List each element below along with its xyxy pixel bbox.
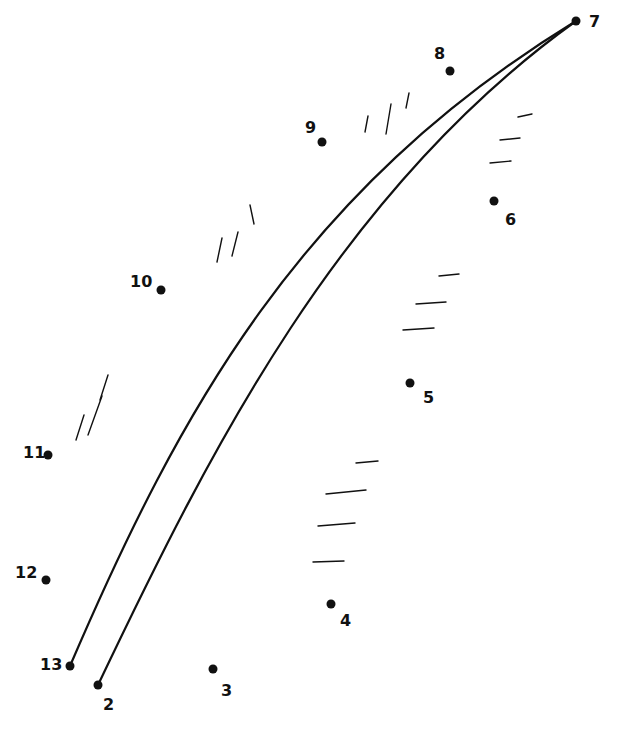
dot-number-label: 11 <box>23 443 45 462</box>
hatch-mark <box>217 238 222 262</box>
dot-marker-icon <box>327 600 336 609</box>
hatch-mark <box>518 114 532 117</box>
dot-marker-icon <box>406 379 415 388</box>
hatch-mark <box>100 375 108 400</box>
dot-number-label: 5 <box>423 388 434 407</box>
shaft-line <box>70 21 576 666</box>
hatch-mark <box>313 561 344 562</box>
numbered-dots: 2345678910111213 <box>15 12 600 714</box>
dot-marker-icon <box>157 286 166 295</box>
dot-8: 8 <box>434 44 455 76</box>
dot-9: 9 <box>305 118 327 147</box>
feather-hatch-marks <box>76 93 532 562</box>
hatch-mark <box>406 93 409 108</box>
hatch-mark <box>403 328 434 330</box>
hatch-mark <box>439 274 459 276</box>
dot-number-label: 2 <box>103 695 114 714</box>
dot-number-label: 10 <box>130 272 152 291</box>
hatch-mark <box>318 523 355 526</box>
dot-5: 5 <box>406 379 435 408</box>
hatch-mark <box>326 490 366 494</box>
dot-13: 13 <box>40 655 75 674</box>
dot-2: 2 <box>94 681 115 715</box>
dot-10: 10 <box>130 272 166 295</box>
hatch-mark <box>76 415 84 440</box>
hatch-mark <box>386 104 391 134</box>
shaft-line <box>98 21 576 685</box>
dot-marker-icon <box>66 662 75 671</box>
dot-number-label: 8 <box>434 44 445 63</box>
dot-number-label: 12 <box>15 563 37 582</box>
dot-7: 7 <box>572 12 601 31</box>
dot-12: 12 <box>15 563 51 585</box>
dot-marker-icon <box>490 197 499 206</box>
hatch-mark <box>88 396 102 435</box>
feather-dot-to-dot-worksheet: 2345678910111213 <box>0 0 619 751</box>
hatch-mark <box>250 205 254 224</box>
dot-3: 3 <box>209 665 233 701</box>
dot-marker-icon <box>94 681 103 690</box>
dot-marker-icon <box>42 576 51 585</box>
dot-number-label: 6 <box>505 210 516 229</box>
dot-marker-icon <box>446 67 455 76</box>
dot-number-label: 9 <box>305 118 316 137</box>
hatch-mark <box>356 461 378 463</box>
dot-4: 4 <box>327 600 352 631</box>
dot-6: 6 <box>490 197 517 230</box>
hatch-mark <box>232 232 238 256</box>
dot-marker-icon <box>572 17 581 26</box>
dot-number-label: 13 <box>40 655 62 674</box>
dot-11: 11 <box>23 443 53 462</box>
dot-number-label: 3 <box>221 681 232 700</box>
dot-number-label: 4 <box>340 611 351 630</box>
hatch-mark <box>500 138 520 140</box>
feather-shaft <box>70 21 576 685</box>
hatch-mark <box>416 302 446 304</box>
dot-number-label: 7 <box>589 12 600 31</box>
dot-marker-icon <box>209 665 218 674</box>
dot-marker-icon <box>318 138 327 147</box>
hatch-mark <box>490 161 511 163</box>
hatch-mark <box>365 116 368 132</box>
